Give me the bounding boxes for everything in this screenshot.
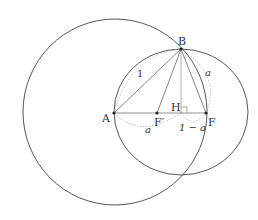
length-label-hf: 1 − a bbox=[179, 122, 206, 133]
arc-bf-dotted bbox=[181, 49, 210, 113]
label-h: H bbox=[171, 101, 181, 114]
point-f bbox=[204, 111, 207, 114]
arc-hf-dotted bbox=[181, 113, 206, 122]
point-f-prime bbox=[155, 111, 158, 114]
right-angle-marker bbox=[181, 107, 187, 113]
label-f-prime: F′ bbox=[154, 116, 165, 129]
point-a bbox=[112, 111, 115, 114]
length-label-af-prime: a bbox=[145, 124, 151, 135]
label-a: A bbox=[101, 112, 111, 125]
length-label-bf: a bbox=[205, 67, 211, 78]
geometry-diagram: A B F′ H F 1 a a 1 − a bbox=[0, 0, 258, 220]
label-f: F bbox=[208, 116, 216, 129]
length-label-ab: 1 bbox=[137, 68, 143, 79]
label-b: B bbox=[178, 35, 186, 48]
